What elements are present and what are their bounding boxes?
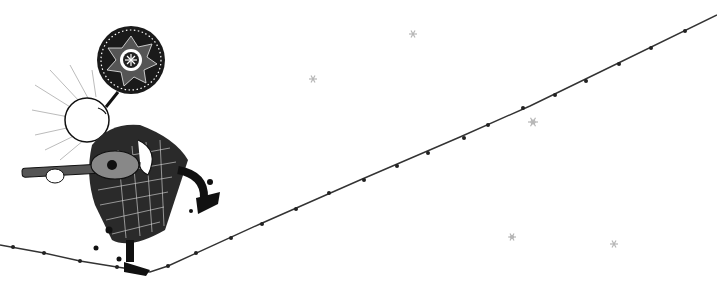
- star-icon: [409, 31, 417, 38]
- guitar-icon: [22, 151, 139, 179]
- illustration-canvas: [0, 0, 717, 289]
- medallion-balloon: [97, 26, 165, 107]
- star-icon: [508, 234, 516, 241]
- dancing-figure: [22, 65, 220, 276]
- shoe-left: [124, 262, 150, 276]
- star-icon: [528, 118, 538, 127]
- star-icon: [309, 76, 317, 83]
- star-icon: [610, 241, 618, 248]
- shoe-right: [196, 192, 220, 214]
